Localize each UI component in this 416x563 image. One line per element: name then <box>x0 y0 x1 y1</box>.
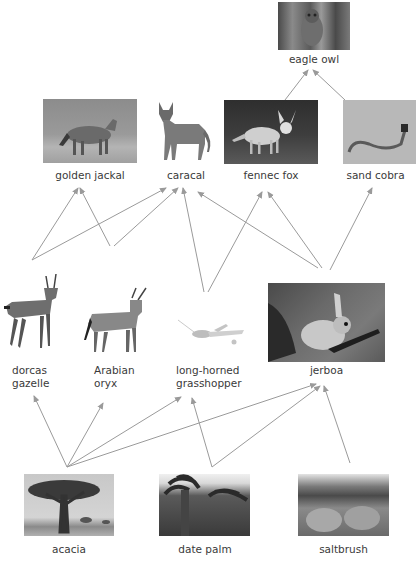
arrow-saltbrush-to-jerboa <box>324 386 350 463</box>
jerboa-silhouette-icon <box>268 283 385 362</box>
jackal-silhouette-icon <box>43 99 137 163</box>
fox-silhouette-icon <box>224 100 318 164</box>
caracal-label: caracal <box>150 169 222 182</box>
arrow-jerboa-to-sandcobra <box>330 188 372 270</box>
arrow-acacia-to-oryx <box>67 403 103 467</box>
arrow-sandcobra-to-eagleowl <box>313 70 345 100</box>
arrow-fennecfox-to-eagleowl <box>285 70 308 100</box>
eagle-owl-label: eagle owl <box>278 53 350 66</box>
grasshopper-label-line1: long-horned <box>176 364 242 377</box>
grasshopper-silhouette-icon <box>178 318 248 348</box>
fennec-fox-image <box>224 100 318 164</box>
palm-tree-icon <box>159 474 250 536</box>
fennec-fox-label: fennec fox <box>224 169 318 182</box>
date-palm-image <box>159 474 250 536</box>
owl-silhouette-icon <box>278 2 350 50</box>
caracal-image <box>155 100 217 164</box>
grasshopper-label: long-horned grasshopper <box>176 364 242 390</box>
arrow-oryx-to-jackal <box>80 188 110 246</box>
dorcas-gazelle-image <box>0 270 68 358</box>
saltbrush-image <box>298 474 389 536</box>
grasshopper-label-line2: grasshopper <box>176 377 242 390</box>
arrow-oryx-to-caracal <box>114 188 178 246</box>
dorcas-gazelle-label-line2: gazelle <box>12 377 49 390</box>
arabian-oryx-image <box>80 286 152 358</box>
acacia-label: acacia <box>24 543 114 556</box>
arrow-jerboa-to-caracal <box>198 192 318 268</box>
golden-jackal-image <box>43 99 137 163</box>
arrow-jerboa-to-fennecfox <box>268 192 322 268</box>
arrow-datepalm-to-grasshopper <box>192 398 212 467</box>
arrow-datepalm-to-jerboa <box>212 386 320 467</box>
snake-silhouette-icon <box>343 100 416 164</box>
arrow-gazelle-to-jackal <box>32 188 78 260</box>
shrub-icon <box>298 474 389 536</box>
jerboa-label: jerboa <box>268 364 385 377</box>
arabian-oryx-label: Arabian oryx <box>94 364 135 390</box>
jerboa-image <box>268 283 385 362</box>
acacia-tree-icon <box>24 474 114 536</box>
grasshopper-image <box>178 318 248 348</box>
sand-cobra-image <box>343 100 416 164</box>
golden-jackal-label: golden jackal <box>30 169 150 182</box>
arrow-acacia-to-grasshopper <box>67 397 181 467</box>
arabian-oryx-label-line1: Arabian <box>94 364 135 377</box>
eagle-owl-image <box>278 2 350 50</box>
oryx-silhouette-icon <box>80 286 152 358</box>
arrow-acacia-to-gazelle <box>34 396 67 467</box>
gazelle-silhouette-icon <box>0 270 68 358</box>
dorcas-gazelle-label: dorcas gazelle <box>12 364 49 390</box>
caracal-silhouette-icon <box>155 100 217 164</box>
arrow-grasshopper-to-caracal <box>183 188 204 292</box>
acacia-image <box>24 474 114 536</box>
arrow-grasshopper-to-fennecfox <box>208 192 262 292</box>
arabian-oryx-label-line2: oryx <box>94 377 135 390</box>
date-palm-label: date palm <box>150 543 260 556</box>
dorcas-gazelle-label-line1: dorcas <box>12 364 49 377</box>
sand-cobra-label: sand cobra <box>335 169 416 182</box>
arrow-acacia-to-jerboa <box>67 384 316 467</box>
saltbrush-label: saltbrush <box>290 543 397 556</box>
